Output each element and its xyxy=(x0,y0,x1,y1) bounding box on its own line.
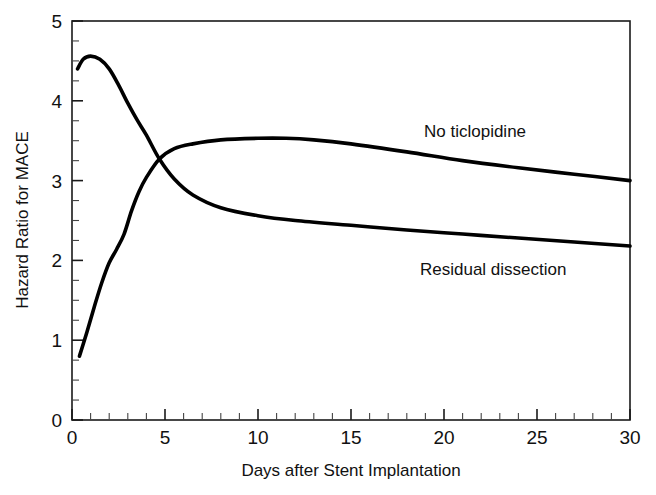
y-axis-title: Hazard Ratio for MACE xyxy=(13,131,32,309)
x-tick-label-15: 15 xyxy=(340,427,361,448)
y-tick-label-0: 0 xyxy=(51,410,62,431)
y-tick-label-2: 2 xyxy=(51,250,62,271)
series-label-no-ticlopidine: No ticlopidine xyxy=(424,122,526,141)
hazard-ratio-line-chart: 5 4 3 2 1 0 0 5 10 15 20 25 30 Days afte… xyxy=(0,0,656,495)
y-tick-label-3: 3 xyxy=(51,171,62,192)
x-axis-title: Days after Stent Implantation xyxy=(241,461,460,480)
x-tick-label-0: 0 xyxy=(67,427,78,448)
x-tick-label-5: 5 xyxy=(160,427,171,448)
x-tick-label-30: 30 xyxy=(619,427,640,448)
y-tick-label-5: 5 xyxy=(51,11,62,32)
chart-figure: 5 4 3 2 1 0 0 5 10 15 20 25 30 Days afte… xyxy=(0,0,656,495)
y-tick-label-1: 1 xyxy=(51,330,62,351)
x-tick-label-25: 25 xyxy=(526,427,547,448)
y-tick-label-4: 4 xyxy=(51,91,62,112)
x-tick-label-20: 20 xyxy=(433,427,454,448)
series-label-residual-dissection: Residual dissection xyxy=(420,260,566,279)
x-tick-label-10: 10 xyxy=(247,427,268,448)
